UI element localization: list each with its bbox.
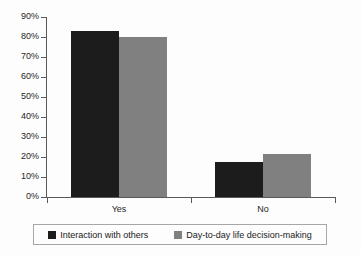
y-axis-tick-label: 80% bbox=[21, 32, 39, 41]
bar-no-series-0 bbox=[215, 162, 263, 197]
bar-yes-series-0 bbox=[71, 31, 119, 197]
x-axis-category-label: No bbox=[233, 204, 293, 215]
bar-no-series-1 bbox=[263, 154, 311, 197]
y-axis-tick bbox=[41, 77, 46, 78]
y-axis-tick-label: 40% bbox=[21, 112, 39, 121]
y-axis-tick bbox=[41, 37, 46, 38]
y-axis-tick-label: 70% bbox=[21, 52, 39, 61]
y-axis-tick bbox=[41, 137, 46, 138]
y-axis-tick-label: 10% bbox=[21, 172, 39, 181]
y-axis-tick bbox=[41, 117, 46, 118]
plot-area bbox=[47, 17, 335, 197]
x-axis-tick bbox=[191, 198, 192, 203]
y-axis-tick-label: 30% bbox=[21, 132, 39, 141]
x-axis-category-label: Yes bbox=[89, 204, 149, 215]
y-axis-tick bbox=[41, 57, 46, 58]
legend-label: Interaction with others bbox=[60, 230, 148, 240]
y-axis-tick-label: 0% bbox=[26, 192, 39, 201]
y-axis-tick-label: 50% bbox=[21, 92, 39, 101]
legend-item-0[interactable]: Interaction with others bbox=[48, 230, 148, 240]
legend-swatch-icon bbox=[48, 231, 56, 239]
y-axis-tick-label: 20% bbox=[21, 152, 39, 161]
chart-legend: Interaction with othersDay-to-day life d… bbox=[33, 224, 327, 245]
bar-chart: 0%10%20%30%40%50%60%70%80%90% YesNo Inte… bbox=[0, 0, 361, 255]
y-axis-tick bbox=[41, 97, 46, 98]
y-axis-tick bbox=[41, 17, 46, 18]
y-axis-tick-label: 90% bbox=[21, 12, 39, 21]
legend-swatch-icon bbox=[174, 231, 182, 239]
bar-yes-series-1 bbox=[119, 37, 167, 197]
y-axis-tick bbox=[41, 177, 46, 178]
legend-label: Day-to-day life decision-making bbox=[186, 230, 312, 240]
y-axis-tick bbox=[41, 157, 46, 158]
x-axis-tick bbox=[47, 198, 48, 203]
x-axis-tick bbox=[335, 198, 336, 203]
legend-item-1[interactable]: Day-to-day life decision-making bbox=[174, 230, 312, 240]
y-axis-tick-label: 60% bbox=[21, 72, 39, 81]
